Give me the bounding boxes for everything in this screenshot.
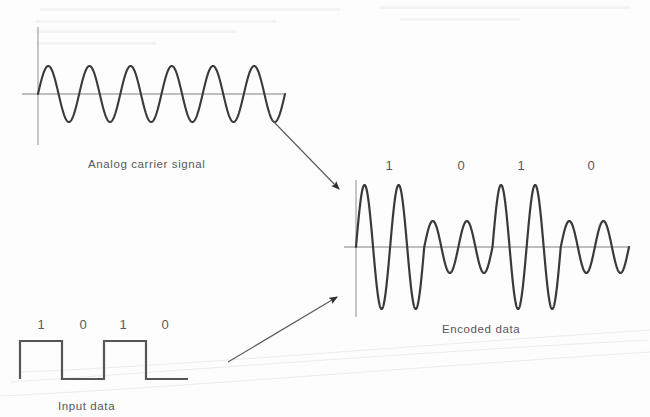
input-data-panel: [20, 341, 188, 379]
ask-modulation-figure: Analog carrier signal Encoded data Input…: [0, 0, 650, 417]
waveform-canvas: [0, 0, 650, 417]
arrow-input-to-encoder: [228, 297, 337, 362]
analog-carrier-caption: Analog carrier signal: [88, 158, 205, 170]
arrow-carrier-to-encoder: [272, 120, 339, 189]
input-bit-label-0: 1: [37, 317, 44, 332]
encoded-bit-label-1: 0: [457, 158, 464, 173]
input-data-caption: Input data: [58, 400, 115, 412]
input-data-waveform: [20, 341, 188, 379]
input-bit-label-2: 1: [119, 317, 126, 332]
encoded-data-panel: [344, 180, 629, 317]
encoded-bit-label-2: 1: [517, 158, 524, 173]
encoded-data-caption: Encoded data: [442, 323, 520, 335]
input-bit-label-1: 0: [79, 317, 86, 332]
encoded-bit-label-3: 0: [587, 158, 594, 173]
encoded-bit-label-0: 1: [385, 158, 392, 173]
input-bit-label-3: 0: [161, 317, 168, 332]
analog-carrier-panel: [22, 27, 285, 145]
